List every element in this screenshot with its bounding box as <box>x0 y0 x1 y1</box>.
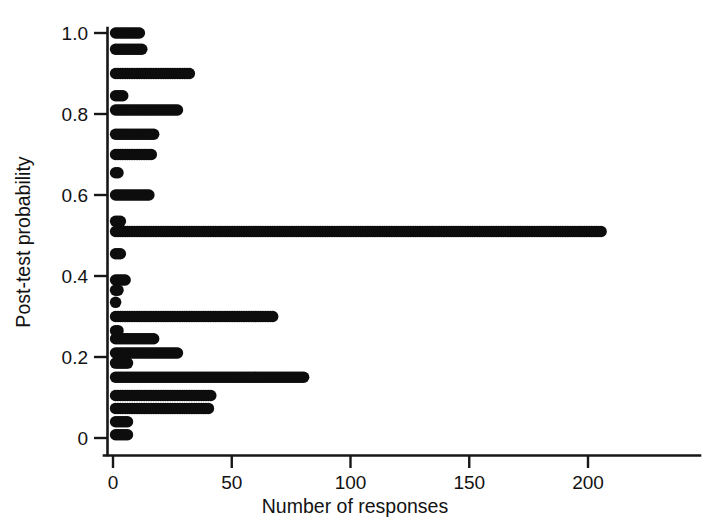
dot-row <box>110 357 133 369</box>
dot-row <box>110 333 160 345</box>
data-dot <box>203 403 215 415</box>
dot-row <box>110 27 145 39</box>
dot-row <box>110 189 155 201</box>
dot-row <box>110 104 183 116</box>
data-dot <box>117 90 129 102</box>
x-axis-ticks: 050100150200 <box>108 455 604 493</box>
data-dot <box>119 274 131 286</box>
y-tick-label: 1.0 <box>62 23 88 44</box>
dot-row <box>110 347 183 359</box>
data-dot <box>112 284 124 296</box>
data-dot <box>205 390 217 402</box>
x-axis-title: Number of responses <box>262 495 449 517</box>
dot-row <box>110 248 126 260</box>
data-dot <box>115 248 127 260</box>
dot-row <box>110 403 214 415</box>
y-tick-label: 0.4 <box>62 266 89 287</box>
x-tick-label: 200 <box>572 472 604 493</box>
dot-row <box>110 274 131 286</box>
data-dot <box>134 27 146 39</box>
data-dot <box>267 311 279 323</box>
y-tick-label: 0.6 <box>62 185 88 206</box>
data-dot <box>110 297 122 309</box>
dot-row <box>110 284 124 296</box>
data-dot <box>172 104 184 116</box>
dot-row <box>110 226 607 238</box>
x-tick-label: 50 <box>221 472 242 493</box>
y-tick-label: 0 <box>77 428 88 449</box>
y-axis-title: Post-test probability <box>12 156 34 327</box>
chart-figure: 00.20.40.60.81.0 050100150200 Number of … <box>0 0 712 530</box>
data-dot <box>148 129 160 141</box>
dot-row <box>110 372 310 384</box>
data-dot <box>148 333 160 345</box>
dot-row <box>110 416 133 428</box>
data-dot <box>112 167 124 179</box>
dot-row <box>110 129 160 141</box>
dot-row <box>110 311 279 323</box>
dot-plot-svg: 00.20.40.60.81.0 050100150200 Number of … <box>0 0 712 530</box>
data-dots-layer <box>110 27 607 440</box>
data-dot <box>122 429 133 441</box>
data-dot <box>146 149 158 161</box>
axis-labels-layer: Number of responses Post-test probabilit… <box>12 156 448 517</box>
dot-row <box>110 216 126 228</box>
data-dot <box>136 43 148 55</box>
data-dot <box>122 416 133 428</box>
x-tick-label: 0 <box>108 472 119 493</box>
dot-row <box>110 43 148 55</box>
y-axis-ticks: 00.20.40.60.81.0 <box>62 23 107 449</box>
dot-row <box>110 167 124 179</box>
x-tick-label: 100 <box>335 472 367 493</box>
data-dot <box>172 347 184 359</box>
dot-row <box>110 149 157 161</box>
dot-row <box>110 68 195 80</box>
dot-row <box>110 429 133 441</box>
data-dot <box>184 68 196 80</box>
dot-row <box>110 297 122 309</box>
data-dot <box>595 226 607 238</box>
x-tick-label: 150 <box>453 472 485 493</box>
axes-layer: 00.20.40.60.81.0 050100150200 <box>62 23 700 493</box>
data-dot <box>122 357 133 369</box>
data-dot <box>298 372 310 384</box>
dot-row <box>110 90 129 102</box>
y-tick-label: 0.2 <box>62 347 88 368</box>
data-dot <box>143 189 155 201</box>
y-tick-label: 0.8 <box>62 104 88 125</box>
dot-row <box>110 390 217 402</box>
data-dot <box>115 216 127 228</box>
